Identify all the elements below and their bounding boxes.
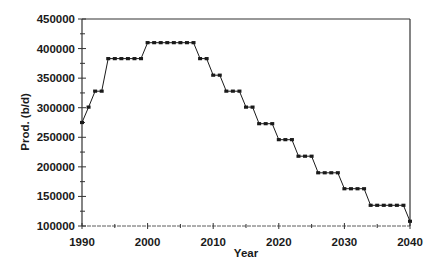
data-point-marker xyxy=(395,204,399,207)
x-tick-label: 2040 xyxy=(397,236,423,248)
y-tick-label: 350000 xyxy=(37,72,75,84)
data-point-marker xyxy=(165,41,169,44)
data-point-marker xyxy=(342,187,346,190)
data-point-marker xyxy=(93,90,97,93)
data-point-marker xyxy=(159,41,163,44)
data-point-marker xyxy=(336,171,340,174)
data-point-marker xyxy=(231,90,235,93)
data-point-marker xyxy=(185,41,189,44)
data-point-marker xyxy=(362,187,366,190)
data-point-marker xyxy=(119,57,123,60)
x-tick-label: 2000 xyxy=(135,236,161,248)
data-point-marker xyxy=(178,41,182,44)
data-point-marker xyxy=(388,204,392,207)
data-point-marker xyxy=(106,57,110,60)
data-point-marker xyxy=(152,41,156,44)
data-point-marker xyxy=(375,204,379,207)
y-tick-label: 100000 xyxy=(37,220,75,232)
x-axis-label: Year xyxy=(234,247,259,259)
data-point-marker xyxy=(310,155,314,158)
y-tick-label: 300000 xyxy=(37,102,75,114)
x-tick-label: 2020 xyxy=(266,236,292,248)
data-point-marker xyxy=(408,220,412,223)
data-point-marker xyxy=(132,57,136,60)
data-point-marker xyxy=(290,138,294,141)
data-point-marker xyxy=(323,171,327,174)
x-tick-label: 2030 xyxy=(332,236,358,248)
data-point-marker xyxy=(87,106,91,109)
x-axis: 199020002010202020302040 xyxy=(69,223,423,248)
data-point-marker xyxy=(329,171,333,174)
y-axis-label: Prod. (b/d) xyxy=(19,93,31,151)
y-tick-label: 200000 xyxy=(37,161,75,173)
data-point-marker xyxy=(172,41,176,44)
data-point-marker xyxy=(303,155,307,158)
y-tick-label: 450000 xyxy=(37,13,75,25)
data-point-marker xyxy=(257,122,261,125)
data-point-marker xyxy=(218,74,222,77)
data-point-marker xyxy=(349,187,353,190)
data-point-marker xyxy=(224,90,228,93)
data-point-marker xyxy=(205,57,209,60)
data-point-marker xyxy=(139,57,143,60)
data-point-marker xyxy=(264,122,268,125)
y-tick-label: 250000 xyxy=(37,131,75,143)
y-axis: 1000001500002000002500003000003500004000… xyxy=(37,13,86,232)
data-point-marker xyxy=(211,74,215,77)
x-tick-label: 2010 xyxy=(200,236,226,248)
data-point-marker xyxy=(198,57,202,60)
data-point-marker xyxy=(80,121,84,124)
y-tick-label: 150000 xyxy=(37,190,75,202)
data-point-marker xyxy=(401,204,405,207)
x-tick-label: 1990 xyxy=(69,236,95,248)
data-point-marker xyxy=(277,138,281,141)
data-point-marker xyxy=(237,90,241,93)
data-point-marker xyxy=(356,187,360,190)
data-point-marker xyxy=(296,155,300,158)
production-line xyxy=(82,43,410,222)
data-point-marker xyxy=(100,90,104,93)
data-point-marker xyxy=(369,204,373,207)
data-point-marker xyxy=(244,106,248,109)
plot-frame xyxy=(82,19,410,226)
data-point-marker xyxy=(192,41,196,44)
production-chart: 1000001500002000002500003000003500004000… xyxy=(0,0,439,277)
data-point-marker xyxy=(316,171,320,174)
data-point-marker xyxy=(283,138,287,141)
y-tick-label: 400000 xyxy=(37,43,75,55)
data-point-marker xyxy=(146,41,150,44)
data-point-marker xyxy=(382,204,386,207)
data-point-marker xyxy=(113,57,117,60)
data-point-marker xyxy=(270,122,274,125)
data-series xyxy=(80,41,412,223)
data-point-marker xyxy=(126,57,130,60)
data-point-marker xyxy=(251,106,255,109)
